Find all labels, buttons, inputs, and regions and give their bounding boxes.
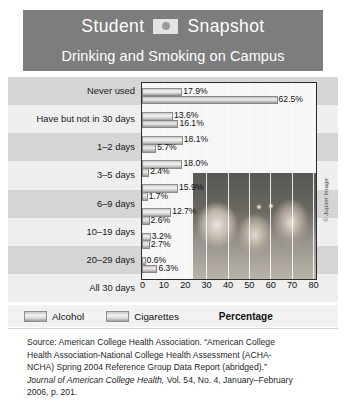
bar-cigarettes [142,120,178,129]
data-label: 17.9% [183,86,207,96]
data-label: 12.7% [172,206,196,216]
legend-label-alcohol: Alcohol [52,311,84,322]
x-tick-label: 30 [202,280,212,290]
data-label: 2.6% [151,215,171,225]
category-label: Never used [87,85,135,96]
x-tick-label: 50 [244,280,254,290]
x-tick-label: 10 [159,280,169,290]
bar-cigarettes [142,216,150,225]
source-line-3: NCHA) Spring 2004 Reference Group Data R… [27,361,323,374]
data-label: 16.1% [179,118,203,128]
gridline [292,83,293,279]
x-tick-label: 80 [308,280,318,290]
gridline [270,83,271,279]
category-label: 10–19 days [87,226,135,237]
plot-area: 17.9%62.5%13.6%16.1%18.1%5.7%18.0%2.4%15… [141,82,317,280]
legend-item-alcohol: Alcohol [24,311,84,322]
figure-header: Student Snapshot Drinking and Smoking on… [23,10,323,71]
data-label: 5.7% [157,142,177,152]
source-line-4: Journal of American College Health, Vol.… [27,374,323,387]
student-snapshot-figure: Student Snapshot Drinking and Smoking on… [0,0,346,416]
title-right: Snapshot [187,16,264,37]
gridline [249,83,250,279]
x-axis-title: Percentage [219,311,273,322]
category-axis: Never usedHave but not in 30 days1–2 day… [8,77,141,302]
category-label: 6–9 days [97,198,135,209]
circle-dot-icon [153,19,178,34]
gridline [206,83,207,279]
data-label: 15.9% [179,182,203,192]
x-axis: 01020304050607080 [141,280,315,294]
data-label: 6.3% [158,263,178,273]
category-label: Have but not in 30 days [36,113,135,124]
photo-credit: © Jupiter Image [322,178,329,222]
legend-label-cigarettes: Cigarettes [134,311,179,322]
bar-cigarettes [142,144,156,153]
bar-cigarettes [142,96,278,105]
figure-subtitle: Drinking and Smoking on Campus [23,42,323,69]
x-tick-label: 60 [266,280,276,290]
bar-cigarettes [142,168,149,177]
x-tick-label: 0 [140,280,145,290]
data-label: 18.1% [184,134,208,144]
source-journal-title: Journal of American College Health, [27,375,164,385]
circle-dot-inner [162,22,170,30]
data-label: 62.5% [279,94,303,104]
source-line-1: Source: American College Health Associat… [27,336,323,349]
legend-swatch-cigarettes [106,311,129,322]
source-line-2: Health Association-National College Heal… [27,349,323,362]
chart-area: Never usedHave but not in 30 days1–2 day… [8,77,338,302]
source-journal-rest: Vol. 54, No. 4, January–February [164,375,293,385]
x-tick-label: 20 [180,280,190,290]
category-label: 3–5 days [97,169,135,180]
x-tick-label: 40 [223,280,233,290]
bar-cigarettes [142,240,150,249]
gridline [228,83,229,279]
category-label: 1–2 days [97,141,135,152]
data-label: 2.4% [150,166,170,176]
legend-swatch-alcohol [24,311,47,322]
figure-title-row: Student Snapshot [23,10,323,42]
bar-cigarettes [142,265,157,274]
source-divider [8,328,338,329]
data-label: 1.7% [149,191,169,201]
category-label: 20–29 days [87,254,135,265]
data-label: 18.0% [183,158,207,168]
chart-legend: Alcohol Cigarettes Percentage [8,305,338,327]
x-tick-label: 70 [287,280,297,290]
legend-item-cigarettes: Cigarettes [106,311,179,322]
data-label: 2.7% [151,239,171,249]
bar-cigarettes [142,192,148,201]
source-line-5: 2006, p. 201. [27,386,323,399]
category-label: All 30 days [89,282,135,293]
source-note: Source: American College Health Associat… [27,336,323,399]
title-left: Student [81,16,144,37]
gridline [313,83,314,279]
decorative-photo [193,173,316,279]
